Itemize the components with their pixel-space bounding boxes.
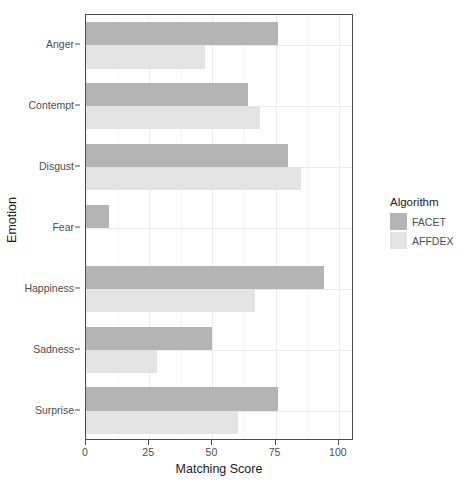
y-axis-title-text: Emotion xyxy=(5,197,19,243)
bar-surprise-facet xyxy=(86,387,278,410)
plot-panel xyxy=(85,14,353,440)
x-tick-mark xyxy=(85,440,86,445)
y-tick-label-surprise: Surprise xyxy=(35,404,74,416)
bar-surprise-affdex xyxy=(86,411,238,434)
x-tick-label-0: 0 xyxy=(82,446,88,458)
y-tick-mark xyxy=(75,166,80,167)
bar-sadness-facet xyxy=(86,327,212,350)
gridline-major xyxy=(339,15,340,439)
gridline-major xyxy=(212,15,213,439)
legend-item-facet[interactable]: FACET xyxy=(390,212,466,231)
y-tick-mark xyxy=(75,105,80,106)
y-tick-mark xyxy=(75,409,80,410)
y-axis-tick-labels: AngerContemptDisgustFearHappinessSadness… xyxy=(20,14,80,440)
gridline-minor xyxy=(118,15,119,439)
x-tick-mark xyxy=(338,440,339,445)
bar-contempt-affdex xyxy=(86,106,260,129)
x-tick-mark xyxy=(211,440,212,445)
gridline-minor xyxy=(181,15,182,439)
gridline-major-horizontal xyxy=(86,228,352,229)
y-axis-title: Emotion xyxy=(2,0,22,440)
legend-swatch-affdex xyxy=(390,232,407,249)
y-tick-label-anger: Anger xyxy=(46,38,74,50)
legend-label-affdex: AFFDEX xyxy=(412,235,453,247)
bar-happiness-facet xyxy=(86,266,324,289)
y-tick-label-contempt: Contempt xyxy=(28,99,74,111)
legend-item-affdex[interactable]: AFFDEX xyxy=(390,231,466,250)
gridline-major xyxy=(149,15,150,439)
legend: Algorithm FACETAFFDEX xyxy=(390,196,466,250)
bar-disgust-facet xyxy=(86,144,288,167)
x-tick-mark xyxy=(275,440,276,445)
gridline-minor xyxy=(307,15,308,439)
legend-swatch-facet xyxy=(390,213,407,230)
y-tick-label-fear: Fear xyxy=(52,221,74,233)
gridline-major xyxy=(276,15,277,439)
y-tick-mark xyxy=(75,348,80,349)
figure-caption xyxy=(0,484,466,495)
x-axis-title: Matching Score xyxy=(85,462,353,476)
y-tick-mark xyxy=(75,287,80,288)
x-tick-label-100: 100 xyxy=(329,446,347,458)
bar-disgust-affdex xyxy=(86,167,301,190)
bar-contempt-facet xyxy=(86,83,248,106)
y-tick-label-happiness: Happiness xyxy=(24,282,74,294)
y-tick-label-sadness: Sadness xyxy=(33,343,74,355)
x-tick-label-75: 75 xyxy=(269,446,281,458)
legend-items: FACETAFFDEX xyxy=(390,212,466,250)
bar-anger-facet xyxy=(86,22,278,45)
x-tick-mark xyxy=(148,440,149,445)
x-tick-label-25: 25 xyxy=(142,446,154,458)
chart-figure: Emotion AngerContemptDisgustFearHappines… xyxy=(0,0,466,495)
bar-anger-affdex xyxy=(86,45,205,68)
y-tick-label-disgust: Disgust xyxy=(39,160,74,172)
bar-fear-facet xyxy=(86,205,109,228)
y-tick-mark xyxy=(75,44,80,45)
bar-sadness-affdex xyxy=(86,350,157,373)
x-axis-tick-labels: 0255075100 xyxy=(85,440,353,462)
bar-happiness-affdex xyxy=(86,289,255,312)
legend-label-facet: FACET xyxy=(412,216,446,228)
legend-title: Algorithm xyxy=(390,196,466,208)
gridline-minor xyxy=(244,15,245,439)
x-tick-label-50: 50 xyxy=(206,446,218,458)
y-tick-mark xyxy=(75,227,80,228)
